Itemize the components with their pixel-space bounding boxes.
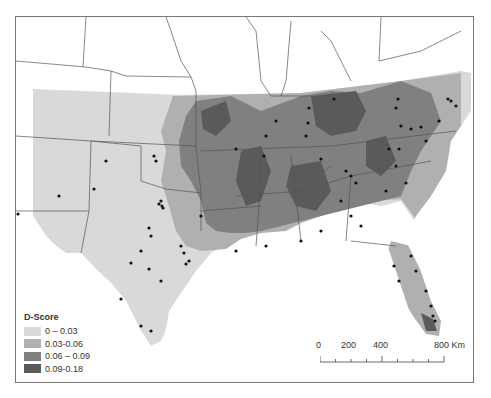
legend-label: 0.09-0.18 xyxy=(45,364,83,374)
scale-label-400: 400 xyxy=(373,340,388,350)
scale-ruler xyxy=(320,354,450,366)
legend-item: 0 – 0.03 xyxy=(24,325,90,338)
legend: D-Score 0 – 0.03 0.03-0.06 0.06 – 0.09 0… xyxy=(24,312,90,375)
scale-label-0: 0 xyxy=(316,340,321,350)
legend-item: 0.09-0.18 xyxy=(24,363,90,376)
region-class-3 xyxy=(179,81,441,233)
legend-label: 0.03-0.06 xyxy=(45,339,83,349)
scale-label-200: 200 xyxy=(341,340,356,350)
legend-item: 0.03-0.06 xyxy=(24,338,90,351)
legend-item: 0.06 – 0.09 xyxy=(24,350,90,363)
legend-swatch xyxy=(24,352,41,361)
legend-label: 0 – 0.03 xyxy=(45,326,78,336)
legend-swatch xyxy=(24,364,41,373)
scale-label-800: 800 Km xyxy=(434,340,465,350)
legend-label: 0.06 – 0.09 xyxy=(45,351,90,361)
legend-swatch xyxy=(24,339,41,348)
legend-swatch xyxy=(24,327,41,336)
legend-title: D-Score xyxy=(24,312,90,322)
